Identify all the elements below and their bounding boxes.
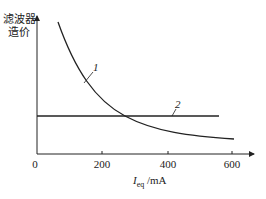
x-tick-400: 400 (160, 158, 177, 170)
series-1-label: 1 (93, 61, 99, 73)
x-tick-600: 600 (224, 158, 241, 170)
x-tick-200: 200 (94, 158, 111, 170)
series-2-label: 2 (175, 98, 181, 110)
x-label-sub: eq (137, 180, 145, 189)
series-1-curve (58, 22, 234, 139)
x-label-unit: /mA (147, 174, 167, 186)
x-axis-label: Ieq /mA (133, 174, 167, 189)
x-tick-0: 0 (32, 158, 38, 170)
